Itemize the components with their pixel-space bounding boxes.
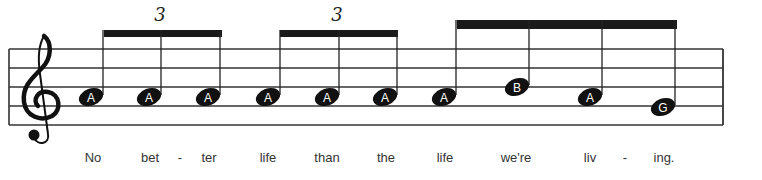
lyric-syllable: life (260, 150, 277, 165)
note-letter: A (145, 92, 153, 104)
lyric-syllable: ter (201, 150, 216, 165)
triplet-marker: 3 (154, 4, 165, 25)
triplet-marker: 3 (331, 4, 342, 25)
note-letter: B (513, 82, 521, 94)
note-letter: A (586, 92, 594, 104)
lyric-syllable: - (178, 150, 182, 165)
beam (457, 20, 677, 29)
note-letter: G (658, 102, 667, 114)
note-letter: A (264, 92, 272, 104)
staff-lines (9, 49, 723, 125)
lyric-syllable: we're (501, 150, 532, 165)
lyric-syllable: ing. (654, 150, 675, 165)
note-letter: A (87, 92, 95, 104)
beams (104, 20, 677, 37)
lyric-syllable: No (85, 150, 102, 165)
lyric-syllable: than (314, 150, 339, 165)
lyric-syllable: liv (584, 150, 596, 165)
note-letter: A (381, 92, 389, 104)
note-letter: A (440, 92, 448, 104)
treble-clef-icon (24, 36, 59, 143)
note-letter: A (204, 92, 212, 104)
lyric-syllable: the (377, 150, 395, 165)
lyric-syllable: life (437, 150, 454, 165)
lyric-syllable: - (623, 150, 627, 165)
lyric-syllable: bet (141, 150, 159, 165)
beam (104, 30, 222, 37)
note-letter: A (323, 92, 331, 104)
